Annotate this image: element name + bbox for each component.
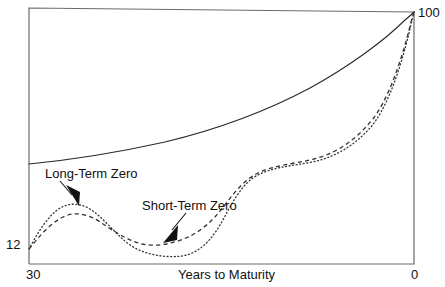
x-axis-title: Years to Maturity [178,268,275,281]
series-label-long-term-zero: Long-Term Zero [45,167,137,180]
annotation-arrow-short-term-zero [163,213,186,243]
chart-plot-area [0,0,445,287]
x-axis-right-tick-label: 0 [411,268,418,281]
series-label-short-term-zero: Short-Term Zero [142,199,237,212]
y-axis-max-tick-label: 100 [418,6,440,19]
plot-frame [29,8,414,264]
x-axis-left-tick-label: 30 [26,268,40,281]
chart-figure: 100 12 30 0 Years to Maturity Long-Term … [0,0,445,287]
y-axis-min-tick-label: 12 [6,238,20,251]
series-line-long-term-zero [29,12,414,257]
series-line-short-term-zero [29,12,414,249]
annotation-arrow-long-term-zero [60,181,80,206]
